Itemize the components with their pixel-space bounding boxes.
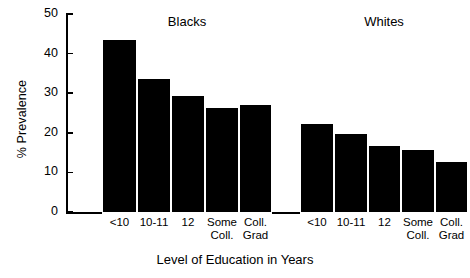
cat-label-whites-12: 12 bbox=[368, 216, 401, 229]
cat-label-line2: Grad bbox=[435, 229, 468, 242]
bar-group-whites bbox=[300, 14, 468, 213]
cat-label-blacks-coll-grad: Coll. Grad bbox=[239, 216, 272, 241]
bar-whites-12 bbox=[368, 145, 401, 213]
cat-label-whites-coll-grad: Coll. Grad bbox=[435, 216, 468, 241]
cat-label-blacks-12: 12 bbox=[171, 216, 205, 229]
bar-blacks-10-11 bbox=[137, 78, 171, 213]
cat-label-blacks-lt10: <10 bbox=[102, 216, 137, 229]
bar-whites-coll-grad bbox=[435, 161, 468, 213]
cat-label-line1: <10 bbox=[102, 216, 137, 229]
cat-label-blacks-some-coll: Some Coll. bbox=[205, 216, 239, 241]
bar-blacks-12 bbox=[171, 95, 205, 213]
baseline-left bbox=[66, 212, 102, 214]
cat-label-whites-10-11: 10-11 bbox=[334, 216, 368, 229]
bar-whites-10-11 bbox=[334, 133, 368, 213]
cat-label-line1: 12 bbox=[368, 216, 401, 229]
group-title-blacks: Blacks bbox=[137, 14, 237, 29]
cat-label-line1: 10-11 bbox=[137, 216, 171, 229]
cat-label-whites-lt10: <10 bbox=[300, 216, 334, 229]
cat-label-whites-some-coll: Some Coll. bbox=[401, 216, 435, 241]
cat-label-blacks-10-11: 10-11 bbox=[137, 216, 171, 229]
cat-label-line2: Coll. bbox=[401, 229, 435, 242]
cat-label-line1: Some bbox=[205, 216, 239, 229]
cat-label-line1: <10 bbox=[300, 216, 334, 229]
cat-label-line2: Grad bbox=[239, 229, 272, 242]
bar-blacks-lt10 bbox=[102, 39, 137, 213]
bar-group-blacks bbox=[102, 14, 272, 213]
bar-whites-lt10 bbox=[300, 123, 334, 213]
bar-chart: % Prevalence 50 40 30 20 10 0 bbox=[0, 0, 470, 278]
cat-label-line1: 12 bbox=[171, 216, 205, 229]
plot-area bbox=[0, 14, 470, 213]
baseline-middle bbox=[272, 212, 300, 214]
cat-label-line1: Some bbox=[401, 216, 435, 229]
bar-whites-some-coll bbox=[401, 149, 435, 213]
cat-label-line1: 10-11 bbox=[334, 216, 368, 229]
cat-label-line1: Coll. bbox=[435, 216, 468, 229]
bar-blacks-some-coll bbox=[205, 107, 239, 213]
cat-label-line2: Coll. bbox=[205, 229, 239, 242]
bar-blacks-coll-grad bbox=[239, 104, 272, 213]
x-axis-title: Level of Education in Years bbox=[0, 252, 470, 267]
group-title-whites: Whites bbox=[334, 14, 434, 29]
cat-label-line1: Coll. bbox=[239, 216, 272, 229]
